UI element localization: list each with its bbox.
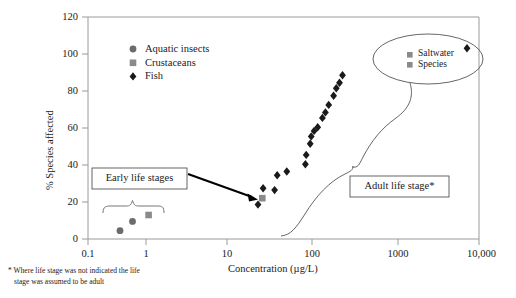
legend-marker-diamond (130, 72, 137, 80)
x-axis-ticks (88, 239, 479, 245)
point-insect (117, 227, 124, 234)
footnote-line-1: * Where life stage was not indicated the… (8, 266, 140, 276)
adult-life-stage-leader (281, 166, 353, 236)
data-points-aquatic-insects (117, 218, 136, 234)
point-fish (260, 184, 267, 192)
legend-label-aquatic-insects: Aquatic insects (145, 44, 209, 55)
y-axis-ticks (82, 17, 88, 239)
legend-marker-square (130, 60, 137, 67)
x-tick-label: 0.1 (68, 249, 108, 260)
legend-markers (130, 46, 137, 81)
point-fish (307, 140, 314, 148)
saltwater-species-label-line1: Saltwater (418, 49, 454, 59)
x-tick-label: 100 (292, 249, 332, 260)
data-points-crustaceans (145, 195, 265, 218)
chart-figure: 120 100 80 60 40 20 0 % Species affected… (0, 0, 516, 298)
early-stage-brace (103, 201, 164, 214)
y-axis-title: % Species affected (44, 110, 55, 190)
y-tick-label: 60 (58, 123, 78, 134)
x-tick-label: 10,000 (459, 249, 504, 260)
y-tick-label: 20 (58, 197, 78, 208)
legend-marker-circle (130, 46, 137, 53)
early-life-stages-arrow-shaft (188, 174, 252, 197)
early-life-stages-label: Early life stages (92, 173, 187, 184)
point-fish (283, 167, 290, 175)
y-tick-label: 40 (58, 160, 78, 171)
y-tick-label: 0 (58, 234, 78, 245)
saltwater-species-label-line2: Species (418, 60, 447, 70)
point-fish (303, 151, 310, 159)
point-fish (325, 101, 332, 109)
x-tick-label: 1 (126, 249, 166, 260)
early-life-stages-arrow-head (248, 194, 259, 202)
x-tick-label: 1000 (378, 249, 418, 260)
adult-life-stage-annotation (281, 166, 449, 236)
saltwater-marker-square (407, 52, 413, 58)
legend-label-crustaceans: Crustaceans (145, 58, 196, 69)
y-tick-label: 100 (58, 49, 78, 60)
x-tick-label: 10 (207, 249, 247, 260)
adult-life-stage-label: Adult life stage* (350, 181, 449, 192)
point-fish (302, 160, 309, 168)
saltwater-species-leader (352, 83, 411, 167)
y-tick-label: 120 (58, 12, 78, 23)
point-fish (339, 71, 346, 79)
x-axis-title: Concentration (µg/L) (228, 264, 318, 275)
point-fish (255, 200, 262, 208)
point-fish (271, 186, 278, 194)
point-insect (129, 218, 136, 225)
legend-label-fish: Fish (145, 71, 163, 82)
saltwater-marker-square (407, 62, 413, 68)
point-crustacean (259, 195, 266, 202)
point-fish (274, 171, 281, 179)
footnote-line-2: stage was assumed to be adult (14, 277, 104, 287)
point-fish (464, 44, 471, 52)
y-tick-label: 80 (58, 86, 78, 97)
point-fish (330, 92, 337, 100)
point-crustacean (145, 212, 152, 219)
